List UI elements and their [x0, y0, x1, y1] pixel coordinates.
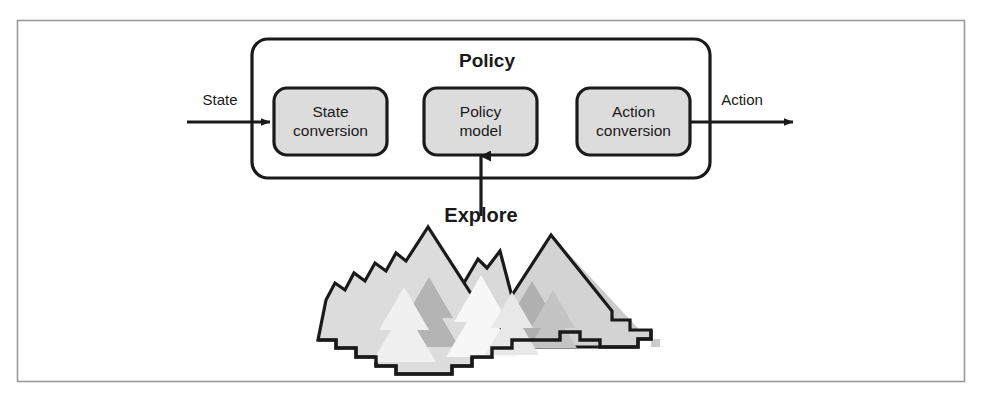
block-policy-model-line2: model [459, 122, 501, 139]
block-action-conversion-line2: conversion [596, 122, 671, 139]
block-policy-model-line1: Policy [460, 103, 502, 120]
block-state-conversion-line1: State [312, 103, 348, 120]
figure-root: Policy State State conversion Policy mod… [0, 0, 982, 398]
policy-diagram: Policy State State conversion Policy mod… [0, 0, 982, 398]
block-state-conversion: State conversion [274, 88, 387, 155]
block-policy-model: Policy model [424, 88, 537, 155]
action-output-label: Action [721, 91, 763, 108]
block-action-conversion: Action conversion [577, 88, 690, 155]
block-state-conversion-line2: conversion [293, 122, 368, 139]
explore-label: Explore [444, 204, 517, 226]
state-input-label: State [202, 91, 237, 108]
policy-container-title: Policy [459, 50, 515, 71]
block-action-conversion-line1: Action [612, 103, 655, 120]
